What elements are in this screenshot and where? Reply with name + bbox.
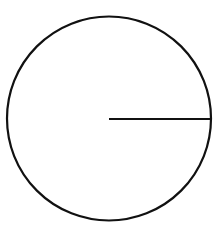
circle-diagram	[0, 0, 216, 236]
diagram-canvas	[0, 0, 216, 236]
